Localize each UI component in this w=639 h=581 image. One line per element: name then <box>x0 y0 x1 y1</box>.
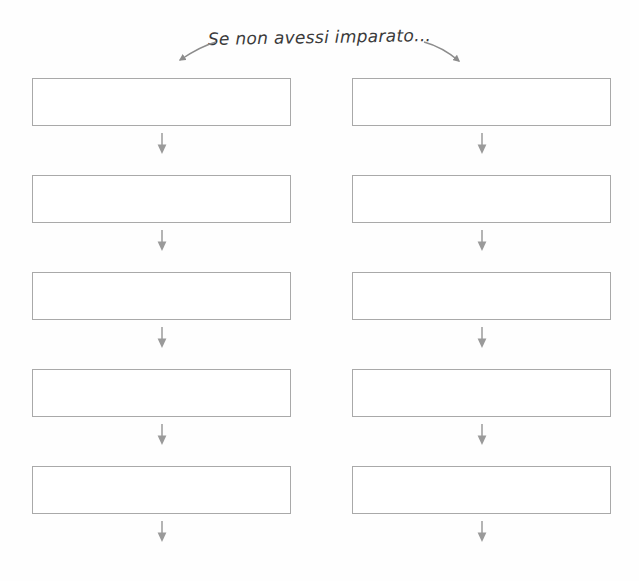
answer-line[interactable] <box>352 162 611 166</box>
answer-line[interactable] <box>352 259 611 263</box>
flow-arrow <box>155 230 169 252</box>
flow-arrow <box>155 521 169 543</box>
answer-line[interactable] <box>32 356 291 360</box>
down-arrow-icon <box>155 521 169 543</box>
answer-box[interactable] <box>32 466 291 514</box>
flow-arrow <box>155 327 169 349</box>
flow-row <box>32 78 291 175</box>
flow-arrow <box>475 424 489 446</box>
flow-arrow <box>475 327 489 349</box>
flow-arrow <box>475 133 489 155</box>
flow-arrow <box>475 521 489 543</box>
flow-row <box>352 78 611 175</box>
flow-arrow <box>475 230 489 252</box>
flow-arrow <box>155 133 169 155</box>
answer-box[interactable] <box>32 369 291 417</box>
down-arrow-icon <box>475 521 489 543</box>
down-arrow-icon <box>155 327 169 349</box>
flow-arrow <box>155 424 169 446</box>
flow-row <box>352 175 611 272</box>
answer-line[interactable] <box>32 162 291 166</box>
down-arrow-icon <box>155 133 169 155</box>
answer-line[interactable] <box>32 453 291 457</box>
flow-row <box>32 369 291 466</box>
answer-box[interactable] <box>32 175 291 223</box>
answer-line[interactable] <box>32 550 291 554</box>
answer-line[interactable] <box>32 259 291 263</box>
down-arrow-icon <box>155 424 169 446</box>
flow-row <box>32 466 291 563</box>
answer-line[interactable] <box>352 550 611 554</box>
answer-box[interactable] <box>352 369 611 417</box>
answer-box[interactable] <box>352 78 611 126</box>
answer-box[interactable] <box>32 272 291 320</box>
down-arrow-icon <box>155 230 169 252</box>
down-arrow-icon <box>475 327 489 349</box>
answer-box[interactable] <box>352 466 611 514</box>
flow-row <box>32 272 291 369</box>
flow-row <box>352 466 611 563</box>
flow-row <box>352 272 611 369</box>
column-right <box>352 0 611 581</box>
answer-box[interactable] <box>352 272 611 320</box>
answer-line[interactable] <box>352 453 611 457</box>
answer-line[interactable] <box>352 356 611 360</box>
worksheet-page: Se non avessi imparato... <box>0 0 639 581</box>
down-arrow-icon <box>475 424 489 446</box>
column-left <box>32 0 291 581</box>
answer-box[interactable] <box>352 175 611 223</box>
down-arrow-icon <box>475 133 489 155</box>
down-arrow-icon <box>475 230 489 252</box>
flow-row <box>32 175 291 272</box>
flow-row <box>352 369 611 466</box>
answer-box[interactable] <box>32 78 291 126</box>
